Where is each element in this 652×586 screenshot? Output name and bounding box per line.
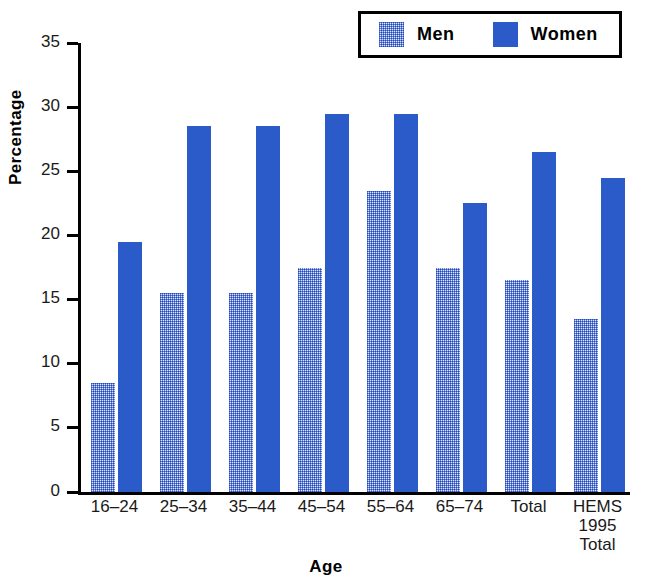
plot-area: 05101520253035 <box>78 43 630 492</box>
y-tick-label-20: 20 <box>41 224 60 244</box>
y-tick-15: 15 <box>67 298 78 301</box>
bar-women-0 <box>118 242 142 492</box>
bar-men-4 <box>367 191 391 492</box>
bar-women-7 <box>601 178 625 492</box>
legend-label-women: Women <box>531 24 598 45</box>
y-tick-label-5: 5 <box>51 416 60 436</box>
y-tick-0: 0 <box>67 491 78 494</box>
bar-women-2 <box>256 126 280 492</box>
bar-men-2 <box>229 293 253 492</box>
x-category-label-7: HEMS 1995 Total <box>563 497 632 554</box>
x-category-label-3: 45–54 <box>287 497 356 516</box>
y-tick-5: 5 <box>67 426 78 429</box>
bar-men-7 <box>574 319 598 492</box>
x-category-label-6: Total <box>494 497 563 516</box>
bar-men-1 <box>160 293 184 492</box>
y-tick-label-35: 35 <box>41 31 60 51</box>
bars-layer <box>81 43 630 492</box>
legend-label-men: Men <box>417 24 455 45</box>
x-category-label-5: 65–74 <box>425 497 494 516</box>
x-axis-line <box>78 492 630 495</box>
bar-women-6 <box>532 152 556 492</box>
bar-men-6 <box>505 280 529 492</box>
y-tick-30: 30 <box>67 106 78 109</box>
y-tick-label-10: 10 <box>41 352 60 372</box>
y-axis-title: Percentage <box>6 89 26 185</box>
bar-women-3 <box>325 114 349 492</box>
bar-men-0 <box>91 383 115 492</box>
bar-men-3 <box>298 268 322 493</box>
x-category-label-1: 25–34 <box>149 497 218 516</box>
bar-chart-figure: Men Women Percentage 05101520253035 16–2… <box>0 0 652 586</box>
x-category-label-0: 16–24 <box>80 497 149 516</box>
y-tick-label-25: 25 <box>41 159 60 179</box>
bar-men-5 <box>436 268 460 493</box>
x-category-label-2: 35–44 <box>218 497 287 516</box>
y-tick-label-30: 30 <box>41 95 60 115</box>
y-tick-25: 25 <box>67 170 78 173</box>
y-tick-label-0: 0 <box>51 480 60 500</box>
bar-women-1 <box>187 126 211 492</box>
y-tick-20: 20 <box>67 234 78 237</box>
x-category-label-4: 55–64 <box>356 497 425 516</box>
y-tick-35: 35 <box>67 42 78 45</box>
y-tick-10: 10 <box>67 362 78 365</box>
x-axis-title: Age <box>0 557 652 577</box>
bar-women-4 <box>394 114 418 492</box>
bar-women-5 <box>463 203 487 492</box>
y-tick-label-15: 15 <box>41 288 60 308</box>
